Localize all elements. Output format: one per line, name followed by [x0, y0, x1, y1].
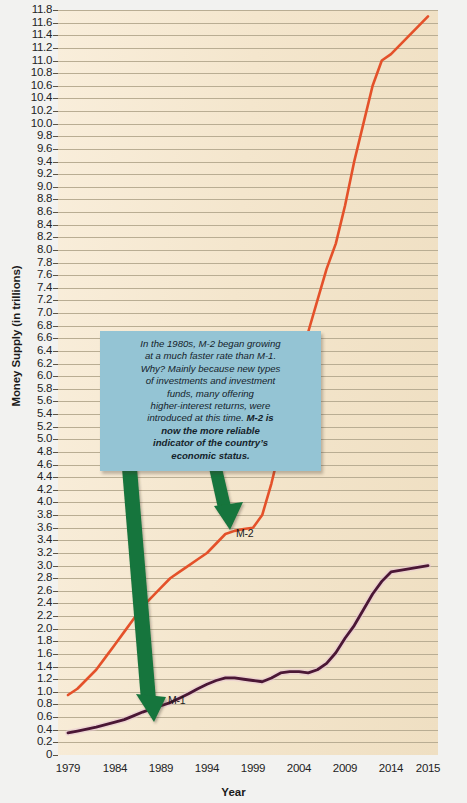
- y-axis-tick-label: 3.6: [0, 522, 52, 533]
- y-axis-tick-label: 6.0: [0, 370, 52, 381]
- x-axis-tick-label: 1979: [45, 762, 91, 774]
- y-axis-tick-label: 11.2: [0, 42, 52, 53]
- series-label-m2: M-2: [236, 527, 253, 539]
- y-axis-tick-label: 7.4: [0, 282, 52, 293]
- y-axis-tick-label: 6.6: [0, 332, 52, 343]
- annotation-line: economic status.: [109, 450, 312, 462]
- y-axis-tick-label: 9.0: [0, 181, 52, 192]
- y-axis-tick-label: 3.0: [0, 560, 52, 571]
- annotation-line: at a much faster rate than M-1.: [109, 350, 312, 362]
- y-axis-tick-label: 9.2: [0, 168, 52, 179]
- y-axis-tick-label: 1.8: [0, 635, 52, 646]
- y-axis-tick-label: 0.8: [0, 698, 52, 709]
- y-axis-tick-label: 1.6: [0, 648, 52, 659]
- y-axis-tick-label: 0.6: [0, 711, 52, 722]
- y-axis-tick-label: 7.6: [0, 269, 52, 280]
- y-axis-tick-label: 0: [0, 749, 52, 760]
- y-axis-tick-label: 11.6: [0, 17, 52, 28]
- y-axis-tick-label: 11.0: [0, 55, 52, 66]
- y-axis-tick-label: 5.6: [0, 395, 52, 406]
- y-axis-tick-label: 3.2: [0, 547, 52, 558]
- x-axis-tick-label: 1994: [184, 762, 230, 774]
- y-axis-title: Money Supply (in trillions): [10, 236, 22, 436]
- annotation-line: indicator of the country’s: [109, 437, 312, 449]
- y-axis-tick-label: 4.8: [0, 446, 52, 457]
- y-axis-tick-label: 4.2: [0, 484, 52, 495]
- y-axis-tick-label: 2.8: [0, 572, 52, 583]
- y-axis-tick-label: 1.0: [0, 686, 52, 697]
- y-axis-tick-label: 11.8: [0, 4, 52, 15]
- y-axis-tick-label: 5.0: [0, 433, 52, 444]
- y-axis-tick-label: 2.6: [0, 585, 52, 596]
- y-axis-tick-label: 11.4: [0, 29, 52, 40]
- y-axis-tick-label: 0.2: [0, 736, 52, 747]
- y-axis-tick-mark: [53, 755, 58, 756]
- annotation-line: now the more reliable: [109, 425, 312, 437]
- y-axis-tick-label: 0.4: [0, 724, 52, 735]
- y-axis-tick-label: 9.6: [0, 143, 52, 154]
- y-axis-tick-label: 6.8: [0, 320, 52, 331]
- chart-root: 11.811.611.411.211.010.810.610.410.210.0…: [0, 0, 467, 803]
- y-axis-tick-label: 8.0: [0, 244, 52, 255]
- annotation-callout: In the 1980s, M-2 began growingat a much…: [100, 331, 321, 471]
- y-axis-tick-label: 5.2: [0, 421, 52, 432]
- y-axis-tick-label: 10.4: [0, 92, 52, 103]
- y-axis-tick-label: 3.8: [0, 509, 52, 520]
- y-axis-tick-label: 4.0: [0, 496, 52, 507]
- y-axis-tick-label: 6.4: [0, 345, 52, 356]
- y-axis-tick-label: 1.4: [0, 661, 52, 672]
- annotation-line: funds, many offering: [109, 388, 312, 400]
- annotation-line: Why? Mainly because new types: [109, 363, 312, 375]
- annotation-line: introduced at this time. M-2 is: [109, 412, 312, 424]
- y-axis: 11.811.611.411.211.010.810.610.410.210.0…: [0, 0, 56, 803]
- y-axis-tick-label: 7.2: [0, 294, 52, 305]
- y-axis-tick-label: 10.2: [0, 105, 52, 116]
- y-axis-tick-label: 2.4: [0, 597, 52, 608]
- y-axis-tick-label: 4.6: [0, 459, 52, 470]
- x-axis-tick-label: 1999: [230, 762, 276, 774]
- y-axis-tick-label: 2.2: [0, 610, 52, 621]
- y-axis-tick-label: 3.4: [0, 534, 52, 545]
- y-axis-tick-label: 9.4: [0, 156, 52, 167]
- y-axis-tick-label: 1.2: [0, 673, 52, 684]
- y-axis-tick-label: 8.4: [0, 219, 52, 230]
- y-axis-tick-label: 10.6: [0, 80, 52, 91]
- y-axis-tick-label: 10.0: [0, 118, 52, 129]
- y-axis-tick-label: 5.8: [0, 383, 52, 394]
- y-axis-tick-label: 4.4: [0, 471, 52, 482]
- y-axis-tick-label: 7.8: [0, 257, 52, 268]
- x-axis-tick-label: 1984: [92, 762, 138, 774]
- x-axis-tick-label: 2009: [322, 762, 368, 774]
- y-axis-tick-label: 6.2: [0, 358, 52, 369]
- y-axis-tick-label: 8.6: [0, 206, 52, 217]
- series-label-m1: M-1: [168, 694, 185, 706]
- annotation-line: In the 1980s, M-2 began growing: [109, 338, 312, 350]
- x-axis-title: Year: [0, 786, 467, 798]
- y-axis-tick-label: 8.2: [0, 231, 52, 242]
- y-axis-tick-label: 10.8: [0, 67, 52, 78]
- annotation-line: higher-interest returns, were: [109, 400, 312, 412]
- y-axis-tick-label: 9.8: [0, 130, 52, 141]
- annotation-line: of investments and investment: [109, 375, 312, 387]
- x-axis-tick-label: 1989: [138, 762, 184, 774]
- x-axis-tick-label: 2004: [276, 762, 322, 774]
- y-axis-tick-label: 8.8: [0, 193, 52, 204]
- x-axis-tick-label: 2015: [405, 762, 451, 774]
- y-axis-tick-label: 7.0: [0, 307, 52, 318]
- series-line-m-1: [68, 566, 428, 733]
- y-axis-tick-label: 2.0: [0, 623, 52, 634]
- y-axis-tick-label: 5.4: [0, 408, 52, 419]
